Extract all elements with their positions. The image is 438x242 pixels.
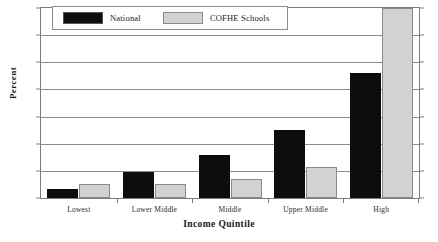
x-tick-label: Lower Middle [114, 205, 194, 214]
x-tick-mark [418, 199, 419, 203]
bar [123, 172, 154, 198]
legend-item-cofhe-schools: COFHE Schools [163, 12, 270, 24]
bar [382, 8, 413, 198]
y-axis-title: Percent [8, 43, 18, 123]
legend-label-national: National [110, 13, 141, 23]
bar [306, 167, 337, 198]
legend-label-cofhe-schools: COFHE Schools [210, 13, 270, 23]
y-tick-mark [420, 143, 424, 144]
bar-chart: Percent 10203040506070 LowestLower Middl… [0, 0, 438, 242]
y-tick-mark [420, 170, 424, 171]
y-tick-mark [420, 8, 424, 9]
x-tick-mark [117, 199, 118, 203]
bar [155, 184, 186, 198]
bar [231, 179, 262, 198]
bar-series-container [41, 8, 419, 198]
bar [79, 184, 110, 198]
x-tick-label: High [341, 205, 421, 214]
bar [199, 155, 230, 198]
x-tick-mark [343, 199, 344, 203]
y-tick-mark [420, 116, 424, 117]
y-tick-mark [420, 89, 424, 90]
legend-swatch-national [63, 12, 103, 24]
x-tick-label: Upper Middle [266, 205, 346, 214]
legend-swatch-cofhe-schools [163, 12, 203, 24]
y-tick-mark [420, 35, 424, 36]
x-tick-mark [268, 199, 269, 203]
x-axis-title: Income Quintile [0, 219, 438, 229]
bar [350, 73, 381, 198]
x-tick-label: Middle [190, 205, 270, 214]
chart-legend: National COFHE Schools [52, 6, 288, 30]
legend-item-national: National [63, 12, 141, 24]
y-tick-mark [420, 198, 424, 199]
x-tick-label: Lowest [39, 205, 119, 214]
bar [274, 130, 305, 198]
bar [47, 189, 78, 199]
x-tick-mark [192, 199, 193, 203]
y-tick-mark [420, 62, 424, 63]
